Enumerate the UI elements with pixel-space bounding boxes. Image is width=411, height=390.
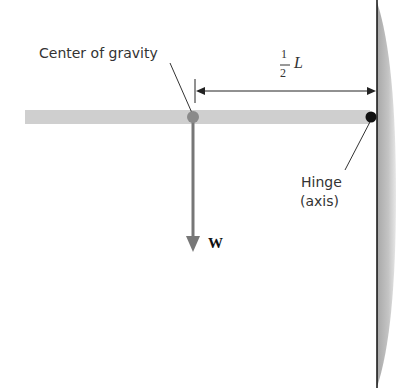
cg-leader-line: [170, 63, 192, 113]
hinge-label: Hinge: [301, 173, 342, 191]
dimension-arrowhead-right: [367, 87, 376, 95]
hinge-leader-line: [345, 120, 371, 170]
wall: [377, 2, 396, 387]
fraction-denominator: 2: [280, 66, 286, 80]
center-of-gravity-label: Center of gravity: [39, 44, 158, 62]
weight-label: W: [208, 234, 223, 252]
weight-arrowhead: [186, 236, 200, 252]
length-symbol: L: [294, 54, 303, 72]
center-of-gravity-dot: [187, 111, 199, 123]
axis-label: (axis): [300, 192, 339, 210]
fraction-numerator: 1: [281, 47, 287, 61]
dimension-arrowhead-left: [196, 87, 205, 95]
hinge-dot: [366, 112, 377, 123]
